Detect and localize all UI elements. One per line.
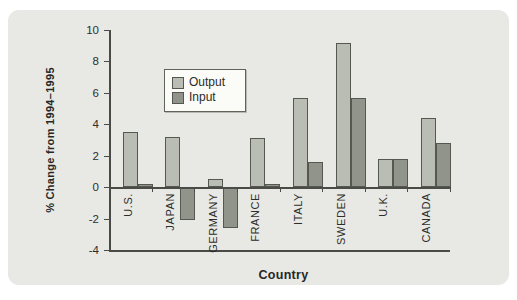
y-tick-label: 6 (73, 87, 99, 99)
category-label-italy: ITALY (292, 193, 305, 253)
category-label-us: U.S. (122, 193, 135, 253)
bar-output-japan (165, 137, 180, 187)
legend-label-input: Input (189, 91, 216, 104)
category-label-sweden: SWEDEN (335, 193, 348, 253)
y-tick-label: -2 (73, 213, 99, 225)
category-label-japan: JAPAN (164, 193, 177, 253)
y-tick (104, 124, 109, 125)
category-label-uk: U.K. (377, 193, 390, 253)
bar-output-germany (208, 179, 223, 187)
y-tick-label: 2 (73, 150, 99, 162)
bottom-axis-line (109, 250, 450, 252)
legend: Output Input (164, 69, 246, 112)
y-tick (104, 61, 109, 62)
y-tick-label: 8 (73, 55, 99, 67)
y-tick (104, 156, 109, 157)
legend-label-output: Output (189, 76, 225, 89)
category-label-canada: CANADA (420, 193, 433, 253)
y-tick-label: -4 (73, 244, 99, 256)
bar-output-france (250, 138, 265, 187)
bar-output-canada (421, 118, 436, 187)
legend-swatch-input-icon (172, 92, 184, 104)
x-axis-title: Country (109, 268, 458, 282)
y-tick-label: 10 (73, 24, 99, 36)
y-tick (104, 93, 109, 94)
legend-item-output: Output (172, 76, 238, 89)
bar-input-uk (393, 159, 408, 187)
zero-line (109, 187, 450, 189)
category-label-france: FRANCE (249, 193, 262, 253)
bar-input-sweden (351, 98, 366, 188)
figure: % Change from 1994–1995 Country Output I… (0, 0, 517, 300)
bar-input-canada (436, 143, 451, 187)
legend-item-input: Input (172, 91, 238, 104)
bar-input-italy (308, 162, 323, 187)
y-tick (104, 250, 109, 251)
y-tick (104, 219, 109, 220)
bar-output-sweden (336, 43, 351, 188)
legend-swatch-output-icon (172, 77, 184, 89)
bar-output-uk (378, 159, 393, 187)
bar-input-germany (223, 187, 238, 228)
category-label-germany: GERMANY (207, 193, 220, 253)
x-tick (450, 187, 451, 192)
y-tick (104, 30, 109, 31)
y-axis-line (109, 30, 111, 250)
y-tick-label: 0 (73, 181, 99, 193)
y-tick-label: 4 (73, 118, 99, 130)
bar-output-us (123, 132, 138, 187)
y-axis-title: % Change from 1994–1995 (43, 40, 57, 240)
bar-input-japan (180, 187, 195, 220)
bar-output-italy (293, 98, 308, 188)
chart-panel: % Change from 1994–1995 Country Output I… (8, 10, 509, 285)
